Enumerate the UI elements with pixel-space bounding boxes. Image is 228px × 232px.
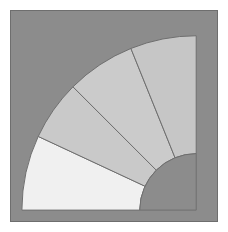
figure-root [0,0,228,232]
quarter-annulus-chart [11,11,217,221]
plot-panel [10,10,218,222]
